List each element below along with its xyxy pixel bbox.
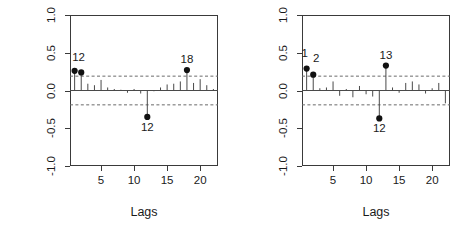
acf-y-tickmark: [65, 166, 70, 167]
acf-y-tick-text: 1.0: [45, 7, 57, 23]
pacf-y-tick-text: -0.5: [277, 118, 289, 138]
acf-y-tick-text: 0.0: [45, 83, 57, 99]
pacf-x-tickmark: [432, 166, 433, 171]
pacf-x-tick-label: 10: [360, 174, 373, 186]
pacf-x-tickmark: [333, 166, 334, 171]
pacf-x-tick-label: 20: [426, 174, 439, 186]
acf-y-tick-text: -1.0: [45, 156, 57, 176]
pacf-y-axis-title-wrap: PACF: [254, 0, 272, 243]
acf-x-tick-label: 20: [194, 174, 207, 186]
pacf-annotation-13: 13: [380, 49, 393, 61]
pacf-y-tick-text: -1.0: [277, 156, 289, 176]
acf-pacf-figure: ACF 1.00.50.0-0.5-1.0 5101520 121812 Lag…: [0, 0, 464, 243]
acf-y-axis-title-wrap: ACF: [22, 0, 40, 243]
pacf-spike-series: [302, 15, 450, 166]
acf-x-tick-label: 15: [161, 174, 174, 186]
acf-y-tick-label: -0.5: [40, 122, 62, 134]
acf-annotation-12: 12: [72, 51, 85, 63]
acf-x-tickmark: [167, 166, 168, 171]
acf-y-tick-text: -0.5: [45, 118, 57, 138]
pacf-x-tickmark: [366, 166, 367, 171]
pacf-y-tick-text: 1.0: [277, 7, 289, 23]
acf-annotation-12: 12: [141, 121, 154, 133]
pacf-x-tick-label: 15: [393, 174, 406, 186]
acf-x-tick-label: 5: [98, 174, 104, 186]
acf-y-tick-label: 1.0: [40, 9, 62, 21]
acf-annotation-18: 18: [181, 53, 194, 65]
pacf-x-tickmark: [399, 166, 400, 171]
acf-x-axis-title: Lags: [70, 205, 218, 219]
acf-x-tick-label: 10: [128, 174, 141, 186]
pacf-annotation-1: 1: [301, 47, 307, 59]
acf-y-tick-text: 0.5: [45, 45, 57, 61]
pacf-y-tick-text: 0.5: [277, 45, 289, 61]
pacf-annotation-2: 2: [313, 52, 319, 64]
pacf-x-tick-label: 5: [330, 174, 336, 186]
acf-x-tickmark: [200, 166, 201, 171]
pacf-y-tick-label: -0.5: [272, 122, 294, 134]
pacf-y-tick-label: 0.5: [272, 47, 294, 59]
acf-spike-series: [70, 15, 218, 166]
acf-x-tickmark: [134, 166, 135, 171]
pacf-panel: PACF 1.00.50.0-0.5-1.0 5101520 121312 La…: [232, 0, 464, 243]
acf-x-tickmark: [101, 166, 102, 171]
acf-y-tick-label: 0.0: [40, 85, 62, 97]
acf-panel: ACF 1.00.50.0-0.5-1.0 5101520 121812 Lag…: [0, 0, 232, 243]
pacf-y-tick-label: -1.0: [272, 160, 294, 172]
pacf-y-tickmark: [297, 166, 302, 167]
acf-y-tick-label: -1.0: [40, 160, 62, 172]
pacf-y-tick-label: 0.0: [272, 85, 294, 97]
acf-y-tick-label: 0.5: [40, 47, 62, 59]
pacf-y-tick-text: 0.0: [277, 83, 289, 99]
pacf-x-axis-title: Lags: [302, 205, 450, 219]
pacf-annotation-12: 12: [373, 122, 386, 134]
pacf-y-tick-label: 1.0: [272, 9, 294, 21]
